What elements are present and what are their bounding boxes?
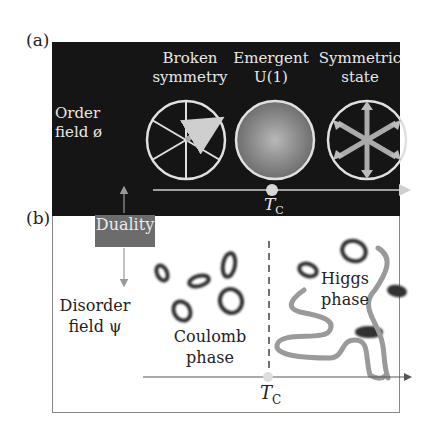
tc-symbol: T (260, 382, 272, 403)
coulomb-line2: phase (160, 347, 260, 368)
coulomb-line1: Coulomb (160, 326, 260, 347)
higgs-line1: Higgs (316, 268, 374, 289)
duality-text: Duality (96, 215, 154, 234)
critical-point-b (263, 372, 273, 382)
symmetric-state-icon (328, 101, 406, 179)
disorder-field-label: Disorder field ψ (55, 295, 135, 337)
disorder-field-line2: field ψ (55, 316, 135, 337)
broken-symmetry-icon (147, 101, 225, 179)
disorder-field-line1: Disorder (55, 295, 135, 316)
emergent-u1-icon (236, 101, 314, 179)
higgs-line2: phase (316, 289, 374, 310)
coulomb-vortex-loops (154, 252, 245, 324)
tc-subscript: C (272, 393, 281, 407)
higgs-phase-label: Higgs phase (316, 268, 374, 310)
tc-label-b: TC (260, 382, 281, 407)
critical-point-a (266, 184, 278, 196)
coulomb-phase-label: Coulomb phase (160, 326, 260, 368)
duality-label-box: Duality (95, 215, 155, 247)
